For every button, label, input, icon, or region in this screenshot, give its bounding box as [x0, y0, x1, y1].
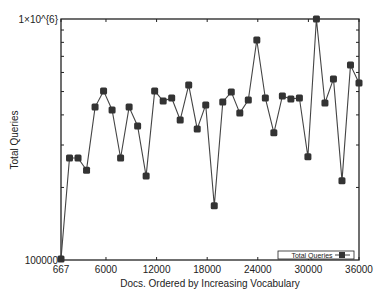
- data-point-marker: [134, 122, 141, 129]
- data-point-marker: [356, 80, 363, 87]
- y-axis-tick-labels: 1000001×10^{6}: [19, 14, 59, 266]
- data-point-marker: [160, 97, 167, 104]
- y-tick-label: 100000: [25, 255, 59, 266]
- data-point-marker: [177, 116, 184, 123]
- series-markers: [58, 16, 363, 263]
- data-point-marker: [279, 93, 286, 100]
- data-point-marker: [347, 62, 354, 69]
- data-point-marker: [168, 95, 175, 102]
- data-point-marker: [296, 95, 303, 102]
- data-point-marker: [126, 104, 133, 111]
- data-point-marker: [151, 87, 158, 94]
- data-point-marker: [253, 37, 260, 44]
- data-point-marker: [109, 107, 116, 114]
- data-point-marker: [66, 154, 73, 161]
- data-point-marker: [236, 110, 243, 117]
- data-point-marker: [92, 104, 99, 111]
- data-point-marker: [194, 125, 201, 132]
- data-point-marker: [228, 88, 235, 95]
- x-axis-title: Docs. Ordered by Increasing Vocabulary: [120, 278, 300, 289]
- legend-square-marker-icon: [339, 252, 345, 258]
- data-point-marker: [117, 154, 124, 161]
- data-point-marker: [83, 167, 90, 174]
- data-point-marker: [143, 173, 150, 180]
- legend: Total Queries: [278, 251, 354, 260]
- series-line-total-queries: [61, 19, 359, 259]
- y-axis-title: Total Queries: [9, 111, 20, 170]
- data-point-marker: [185, 82, 192, 89]
- y-tick-label: 1×10^{6}: [19, 14, 59, 25]
- data-point-marker: [304, 153, 311, 160]
- data-point-marker: [245, 97, 252, 104]
- data-point-marker: [287, 95, 294, 102]
- data-point-marker: [338, 177, 345, 184]
- x-tick-label: 6000: [95, 264, 118, 275]
- data-point-marker: [219, 98, 226, 105]
- line-chart: 66760001200018000240003000036000 1000001…: [0, 0, 384, 300]
- x-tick-label: 24000: [244, 264, 272, 275]
- x-tick-label: 36000: [345, 264, 373, 275]
- data-point-marker: [211, 202, 218, 209]
- x-axis-tick-labels: 66760001200018000240003000036000: [53, 264, 374, 275]
- x-tick-label: 30000: [294, 264, 322, 275]
- data-point-marker: [330, 75, 337, 82]
- data-point-marker: [75, 154, 82, 161]
- x-tick-label: 12000: [143, 264, 171, 275]
- data-point-marker: [321, 100, 328, 107]
- data-point-marker: [58, 255, 65, 262]
- data-point-marker: [270, 129, 277, 136]
- x-tick-label: 18000: [193, 264, 221, 275]
- data-point-marker: [100, 87, 107, 94]
- legend-label: Total Queries: [291, 252, 333, 260]
- data-point-marker: [262, 95, 269, 102]
- data-point-marker: [313, 16, 320, 23]
- data-point-marker: [202, 101, 209, 108]
